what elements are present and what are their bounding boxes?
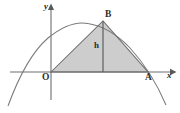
- parabola-triangle-figure: y x O A B h: [0, 0, 180, 113]
- point-label-o: O: [42, 73, 49, 83]
- point-label-a: A: [145, 73, 152, 83]
- arrow-up-icon: [48, 4, 54, 11]
- x-axis-label: x: [167, 71, 172, 80]
- shaded-triangle-region: [51, 21, 148, 72]
- point-label-b: B: [105, 10, 111, 20]
- figure-canvas: [0, 0, 180, 113]
- y-axis-label: y: [44, 2, 48, 11]
- height-label-h: h: [94, 41, 99, 50]
